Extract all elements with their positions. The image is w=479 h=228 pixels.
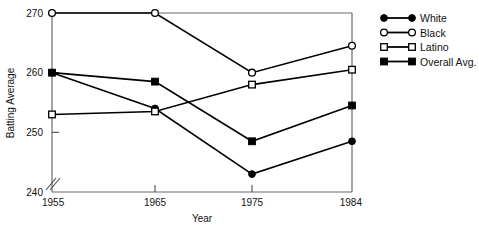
legend-label: Overall Avg. (420, 56, 476, 68)
series-overall-avg (49, 69, 356, 144)
y-axis-title: Batting Average (5, 67, 16, 138)
data-point (249, 69, 256, 76)
data-point (152, 108, 159, 115)
x-axis-title: Year (192, 213, 213, 224)
x-axis-tick-labels: 1955196519751984 (42, 197, 362, 208)
legend-item-white: White (381, 12, 447, 24)
series-line (52, 73, 352, 142)
data-point (249, 138, 256, 145)
series-black (49, 10, 356, 76)
legend-label: White (420, 12, 447, 24)
y-tick-label: 250 (26, 127, 43, 138)
legend-item-black: Black (381, 27, 447, 39)
x-tick-label: 1984 (340, 197, 363, 208)
data-point (349, 102, 356, 109)
x-tick-label: 1965 (144, 197, 167, 208)
legend-marker-start (381, 58, 388, 65)
legend-marker-start (381, 44, 388, 51)
legend-marker-end (409, 29, 416, 36)
data-point (249, 171, 256, 178)
x-tick-label: 1975 (241, 197, 264, 208)
series-white (49, 69, 356, 177)
y-tick-label: 270 (26, 8, 43, 19)
y-axis-ticks (52, 73, 59, 133)
data-point (49, 111, 56, 118)
y-tick-label: 260 (26, 67, 43, 78)
chart-legend: WhiteBlackLatinoOverall Avg. (381, 12, 477, 68)
line-chart: 240250260270 1955196519751984 Year Batti… (0, 0, 479, 228)
data-point (349, 42, 356, 49)
x-tick-label: 1955 (42, 197, 65, 208)
legend-label: Black (420, 27, 446, 39)
legend-item-overall-avg: Overall Avg. (381, 56, 477, 68)
data-point (49, 10, 56, 17)
series-line (52, 73, 352, 174)
data-point (152, 10, 159, 17)
data-point (249, 81, 256, 88)
x-axis-ticks (155, 185, 252, 192)
legend-label: Latino (420, 41, 449, 53)
legend-item-latino: Latino (381, 41, 449, 53)
data-point (349, 138, 356, 145)
data-point (349, 66, 356, 73)
series-layer (49, 10, 356, 178)
data-point (152, 78, 159, 85)
legend-marker-end (409, 58, 416, 65)
series-line (52, 13, 352, 73)
legend-marker-end (409, 15, 416, 22)
legend-marker-start (381, 15, 388, 22)
y-tick-label: 240 (26, 187, 43, 198)
legend-marker-start (381, 29, 388, 36)
legend-marker-end (409, 44, 416, 51)
data-point (49, 69, 56, 76)
y-axis-tick-labels: 240250260270 (26, 8, 43, 198)
chart-container: 240250260270 1955196519751984 Year Batti… (0, 0, 479, 228)
